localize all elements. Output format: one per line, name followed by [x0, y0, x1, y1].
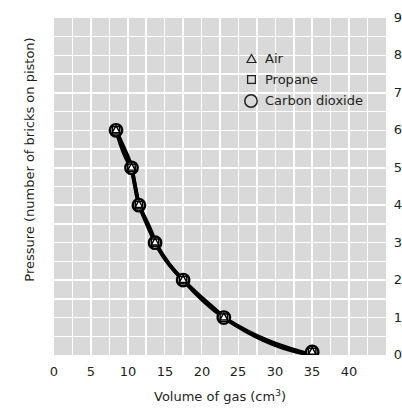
legend-item-propane: Propane: [240, 69, 363, 90]
y-tick-label: 3: [358, 236, 402, 249]
x-tick-label: 25: [218, 365, 258, 378]
data-point: [110, 124, 122, 136]
y-tick-label: 8: [358, 48, 402, 61]
y-axis-title: Pressure (number of bricks on piston): [22, 35, 37, 285]
x-axis-title-base: Volume of gas (cm: [154, 389, 275, 404]
legend-item-air: Air: [240, 48, 363, 69]
legend-item-carbon-dioxide: Carbon dioxide: [240, 90, 363, 111]
data-point: [306, 346, 318, 355]
chart-container: Air Propane Carbon dioxide 9 8 7 6 5 4 3…: [0, 0, 402, 414]
x-axis-title-tail: ): [281, 389, 286, 404]
x-axis-title: Volume of gas (cm3): [54, 388, 386, 404]
x-tick-label: 20: [182, 365, 222, 378]
x-tick-label: 30: [255, 365, 295, 378]
y-tick-label: 6: [358, 123, 402, 136]
legend-label: Air: [262, 51, 283, 66]
y-tick-label: 0: [358, 348, 402, 361]
y-tick-label: 7: [358, 86, 402, 99]
data-point: [125, 162, 137, 174]
legend-label: Carbon dioxide: [262, 93, 363, 108]
triangle-icon: [240, 53, 262, 64]
x-tick-label: 15: [145, 365, 185, 378]
y-tick-label: 4: [358, 198, 402, 211]
data-point: [177, 274, 189, 286]
data-point: [149, 237, 161, 249]
square-icon: [240, 74, 262, 85]
x-tick-label: 5: [71, 365, 111, 378]
plot-area: Air Propane Carbon dioxide: [54, 18, 386, 355]
circle-icon: [240, 93, 262, 109]
y-tick-label: 2: [358, 273, 402, 286]
x-tick-label: 0: [34, 365, 74, 378]
legend-label: Propane: [262, 72, 318, 87]
x-tick-label: 10: [108, 365, 148, 378]
data-point: [133, 199, 145, 211]
x-tick-label: 40: [329, 365, 369, 378]
y-tick-label: 9: [358, 11, 402, 24]
y-tick-label: 1: [358, 311, 402, 324]
x-tick-label: 35: [292, 365, 332, 378]
data-point: [218, 311, 230, 323]
data-point-markers: [110, 124, 319, 355]
y-tick-label: 5: [358, 161, 402, 174]
legend: Air Propane Carbon dioxide: [240, 48, 363, 111]
